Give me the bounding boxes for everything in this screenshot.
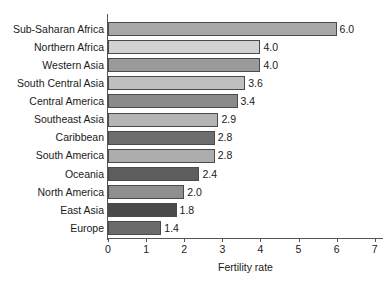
tick-mark [108, 238, 109, 242]
category-label: Sub-Saharan Africa [13, 24, 104, 35]
bar-row: Sub-Saharan Africa6.0 [108, 20, 383, 38]
tick-mark [146, 238, 147, 242]
bar-value-label: 2.0 [187, 187, 202, 198]
bar-row: East Asia1.8 [108, 201, 383, 219]
bar-value-label: 2.8 [218, 150, 233, 161]
bar-rows-container: Sub-Saharan Africa6.0Northern Africa4.0W… [108, 20, 383, 238]
bar [108, 94, 238, 108]
tick-label: 7 [372, 244, 378, 255]
bar-row: Northern Africa4.0 [108, 38, 383, 56]
bar [108, 58, 260, 72]
bar-row: South Central Asia3.6 [108, 74, 383, 92]
bar [108, 221, 161, 235]
tick-label: 5 [296, 244, 302, 255]
tick-mark [260, 238, 261, 242]
category-label: Southeast Asia [34, 114, 104, 125]
x-axis-title: Fertility rate [108, 262, 383, 273]
bar-row: Caribbean2.8 [108, 129, 383, 147]
category-label: Caribbean [56, 132, 104, 143]
category-label: Oceania [65, 169, 104, 180]
tick-label: 6 [334, 244, 340, 255]
category-label: Northern Africa [34, 42, 104, 53]
tick-mark [337, 238, 338, 242]
tick-mark [222, 238, 223, 242]
bar [108, 40, 260, 54]
tick-mark [375, 238, 376, 242]
bar [108, 149, 215, 163]
tick-label: 3 [219, 244, 225, 255]
bar-row: Oceania2.4 [108, 165, 383, 183]
bar [108, 131, 215, 145]
category-label: South America [36, 150, 104, 161]
bar-value-label: 3.4 [241, 96, 256, 107]
category-label: Central America [29, 96, 104, 107]
bar [108, 167, 199, 181]
fertility-rate-bar-chart: Sub-Saharan Africa6.0Northern Africa4.0W… [0, 0, 391, 283]
tick-label: 1 [143, 244, 149, 255]
bar-row: Western Asia4.0 [108, 56, 383, 74]
category-label: Europe [70, 223, 104, 234]
bar-value-label: 1.4 [164, 223, 179, 234]
bar-value-label: 4.0 [263, 60, 278, 71]
bar-row: Central America3.4 [108, 92, 383, 110]
bar-value-label: 1.8 [180, 205, 195, 216]
bar-row: South America2.8 [108, 147, 383, 165]
bar-value-label: 6.0 [340, 24, 355, 35]
bar [108, 76, 245, 90]
bar-row: North America2.0 [108, 183, 383, 201]
bar-row: Europe1.4 [108, 219, 383, 237]
tick-label: 4 [257, 244, 263, 255]
bar-value-label: 2.4 [202, 169, 217, 180]
category-label: East Asia [60, 205, 104, 216]
bar-row: Southeast Asia2.9 [108, 110, 383, 128]
bar [108, 203, 177, 217]
tick-mark [184, 238, 185, 242]
bar [108, 185, 184, 199]
bar [108, 22, 337, 36]
tick-mark [299, 238, 300, 242]
tick-label: 0 [105, 244, 111, 255]
bar [108, 113, 218, 127]
category-label: Western Asia [42, 60, 104, 71]
category-label: North America [37, 187, 104, 198]
tick-label: 2 [181, 244, 187, 255]
bar-value-label: 2.9 [221, 114, 236, 125]
bar-value-label: 3.6 [248, 78, 263, 89]
bar-value-label: 2.8 [218, 132, 233, 143]
bar-value-label: 4.0 [263, 42, 278, 53]
category-label: South Central Asia [17, 78, 104, 89]
